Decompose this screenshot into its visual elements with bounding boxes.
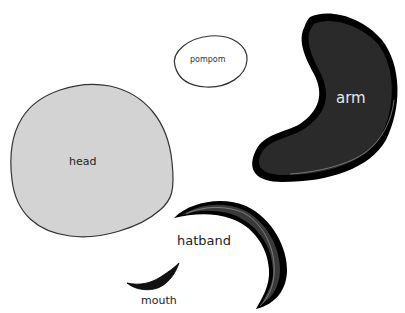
shapes-canvas <box>0 0 405 313</box>
mouth-label: mouth <box>141 294 177 307</box>
arm-label: arm <box>336 89 366 107</box>
hatband-inner <box>182 205 280 304</box>
hatband-label: hatband <box>177 233 231 248</box>
head-label: head <box>69 155 96 168</box>
mouth-shape <box>127 263 179 290</box>
pompom-label: pompom <box>190 55 226 64</box>
